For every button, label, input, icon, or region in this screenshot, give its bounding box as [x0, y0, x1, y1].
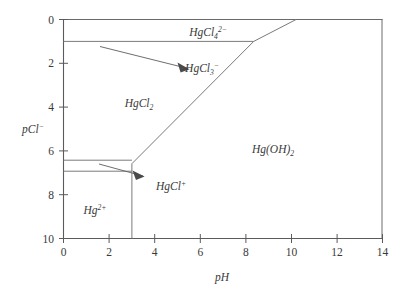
plot-frame — [63, 19, 383, 239]
species-label-hgclplus-sup: + — [181, 179, 186, 188]
y-axis-title-main: pCl — [21, 123, 39, 136]
x-tick-label-0: 0 — [61, 246, 67, 258]
species-label-hgcl2-sub: 2 — [150, 103, 154, 112]
species-label-hgoh2-sub: 2 — [290, 149, 294, 158]
x-axis-title: pH — [214, 271, 230, 284]
x-tick-labels: 0 2 4 6 8 10 12 14 — [61, 246, 389, 258]
y-tick-labels: 0 2 4 6 8 10 — [43, 14, 55, 245]
species-label-hgcl3-base: HgCl — [184, 62, 210, 75]
y-axis-title-superscript: − — [39, 122, 44, 131]
species-label-hgcl4: HgCl42− — [188, 25, 227, 42]
species-label-hgcl3: HgCl3− — [184, 61, 219, 78]
arrow-to-hgclplus-head — [133, 170, 145, 180]
species-label-hgoh2: Hg(OH)2 — [251, 143, 294, 158]
y-tick-label-10: 10 — [43, 233, 55, 245]
species-label-hgcl4-base: HgCl — [188, 26, 214, 39]
species-label-hgclplus-base: HgCl — [155, 180, 181, 193]
predominance-diagram-figure: 0 2 4 6 8 10 0 2 4 6 8 10 12 14 pH pCl− … — [0, 0, 408, 303]
x-tick-label-12: 12 — [331, 246, 343, 258]
boundary-hgcl4-hgoh2 — [254, 20, 296, 42]
y-tick-label-8: 8 — [48, 189, 54, 201]
species-label-hgoh2-base: Hg(OH) — [251, 143, 290, 156]
arrow-to-hgcl3-shaft — [100, 47, 188, 69]
species-label-hg2plus-sup: 2+ — [98, 203, 107, 212]
y-tick-label-0: 0 — [48, 14, 54, 26]
species-label-hgcl4-sub: 4 — [214, 32, 218, 41]
y-tick-label-4: 4 — [48, 101, 54, 113]
x-tick-label-8: 8 — [243, 246, 249, 258]
species-label-hgcl4-sup: 2− — [218, 25, 227, 34]
species-label-hgcl2: HgCl2 — [124, 97, 154, 112]
x-tick-label-4: 4 — [152, 246, 158, 258]
x-tick-label-2: 2 — [106, 246, 112, 258]
arrow-to-hgclplus — [99, 164, 145, 180]
diagram-svg: 0 2 4 6 8 10 0 2 4 6 8 10 12 14 pH pCl− … — [0, 0, 408, 303]
species-labels: HgCl42− HgCl3− HgCl2 Hg(OH)2 HgCl+ Hg2+ — [83, 25, 295, 217]
x-tick-label-6: 6 — [197, 246, 203, 258]
y-tick-label-2: 2 — [48, 57, 54, 69]
x-tick-label-14: 14 — [377, 246, 389, 258]
species-label-hgclplus: HgCl+ — [155, 179, 186, 193]
species-label-hg2plus: Hg2+ — [83, 203, 107, 217]
species-label-hgcl2-base: HgCl — [124, 97, 150, 110]
y-axis-title: pCl− — [21, 122, 44, 136]
species-label-hgcl3-sup: − — [214, 61, 219, 70]
species-label-hgcl3-sub: 3 — [209, 68, 214, 77]
y-tick-label-6: 6 — [48, 145, 54, 157]
arrow-to-hgcl3 — [100, 47, 190, 73]
species-label-hg2plus-base: Hg — [83, 204, 98, 217]
svg-text:pCl−: pCl− — [21, 122, 44, 136]
x-tick-label-10: 10 — [286, 246, 298, 258]
